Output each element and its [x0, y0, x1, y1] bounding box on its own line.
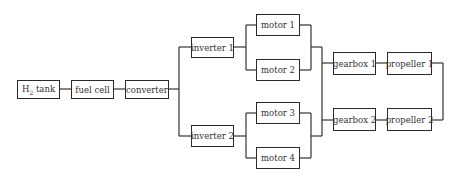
h2-tank-block: H2 tank [17, 80, 60, 99]
propeller-2-block: propeller 2 [387, 108, 432, 131]
converter-block: converter [125, 80, 169, 99]
inverter-2-block: inverter 2 [191, 125, 234, 147]
connection-lines [0, 0, 459, 180]
gearbox-2-label: gearbox 2 [333, 115, 376, 125]
motor-2-block: motor 2 [256, 59, 300, 81]
propeller-1-block: propeller 1 [387, 52, 432, 75]
gearbox-1-label: gearbox 1 [333, 59, 376, 69]
motor-1-block: motor 1 [256, 14, 300, 36]
motor-3-label: motor 3 [261, 108, 295, 118]
motor-2-label: motor 2 [261, 65, 295, 75]
inverter-1-label: inverter 1 [191, 43, 234, 53]
motor-4-block: motor 4 [256, 147, 300, 169]
fuel-cell-label: fuel cell [75, 85, 109, 95]
converter-label: converter [126, 85, 168, 95]
inverter-2-label: inverter 2 [191, 131, 234, 141]
motor-4-label: motor 4 [261, 153, 295, 163]
gearbox-1-block: gearbox 1 [333, 52, 376, 75]
motor-1-label: motor 1 [261, 20, 295, 30]
fuel-cell-block: fuel cell [71, 80, 114, 99]
h2-tank-label: H2 tank [22, 84, 55, 96]
propeller-1-label: propeller 1 [386, 59, 434, 69]
gearbox-2-block: gearbox 2 [333, 108, 376, 131]
powertrain-block-diagram: H2 tank fuel cell converter inverter 1 i… [0, 0, 459, 180]
motor-3-block: motor 3 [256, 102, 300, 124]
propeller-2-label: propeller 2 [386, 115, 434, 125]
inverter-1-block: inverter 1 [191, 37, 234, 58]
